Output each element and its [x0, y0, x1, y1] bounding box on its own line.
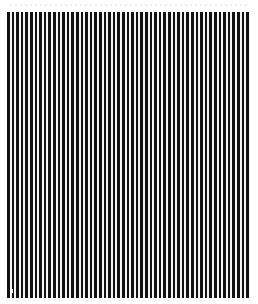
bottom-edge-artifact: [8, 299, 250, 301]
stripe-pattern: [7, 12, 250, 298]
corner-mark: [10, 289, 13, 293]
top-edge-artifact: [10, 4, 250, 6]
